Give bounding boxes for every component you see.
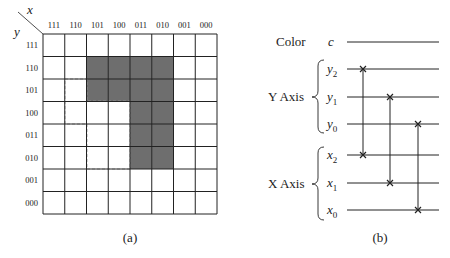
shaded-cell: [87, 57, 109, 80]
shaded-cell: [152, 79, 174, 102]
y-brace: [312, 60, 324, 133]
row-label: 111: [26, 40, 38, 50]
y-axis-label: Y Axis: [268, 89, 304, 104]
column-label: 010: [156, 20, 169, 30]
shaded-cell: [130, 79, 152, 102]
column-label: 111: [48, 20, 60, 30]
caption-b: (b): [372, 230, 387, 245]
wire-label: y2: [325, 61, 337, 79]
grid-lines: [43, 34, 217, 214]
swap-circuit-panel: Color c Y Axis X Axis y2y1y0x2x1x0 (b): [268, 34, 439, 245]
column-label: 110: [69, 20, 81, 30]
column-label: 101: [91, 20, 104, 30]
wire-label: y1: [325, 89, 337, 107]
shaded-cell: [152, 102, 174, 125]
shaded-cell: [108, 57, 130, 80]
column-label: 000: [200, 20, 213, 30]
x-axis-label: X Axis: [268, 176, 304, 191]
row-labels: 111110101100011010001000: [25, 40, 38, 208]
wire-label: y0: [325, 116, 338, 134]
row-label: 110: [26, 63, 38, 73]
column-label: 011: [135, 20, 147, 30]
shaded-cell: [130, 102, 152, 125]
shaded-cell: [87, 79, 109, 102]
row-label: 101: [25, 85, 38, 95]
wire-label: x2: [326, 147, 337, 165]
shaded-cell: [130, 57, 152, 80]
shaded-cell: [152, 57, 174, 80]
shaded-cell: [152, 124, 174, 147]
figure: x y 111110101100011010001000 11111010110…: [0, 0, 450, 258]
column-label: 001: [178, 20, 191, 30]
column-label: 100: [113, 20, 126, 30]
caption-a: (a): [123, 230, 137, 245]
color-label: Color: [276, 34, 306, 49]
wires: y2y1y0x2x1x0: [325, 61, 439, 220]
wire-label: x1: [326, 175, 337, 193]
row-label: 001: [25, 175, 38, 185]
corner-y-label: y: [12, 24, 20, 39]
row-label: 011: [26, 130, 38, 140]
shaded-cell: [152, 147, 174, 170]
shaded-cell: [130, 147, 152, 170]
color-var: c: [328, 34, 334, 49]
karnaugh-grid-panel: x y 111110101100011010001000 11111010110…: [12, 2, 217, 245]
shaded-cell: [130, 124, 152, 147]
column-labels: 111110101100011010001000: [48, 20, 213, 30]
row-label: 000: [25, 198, 38, 208]
corner-x-label: x: [26, 2, 33, 17]
swap-gates: [360, 66, 421, 213]
wire-label: x0: [326, 202, 338, 220]
row-label: 010: [25, 153, 38, 163]
x-brace: [312, 147, 324, 220]
row-label: 100: [25, 108, 38, 118]
shaded-cell: [108, 79, 130, 102]
